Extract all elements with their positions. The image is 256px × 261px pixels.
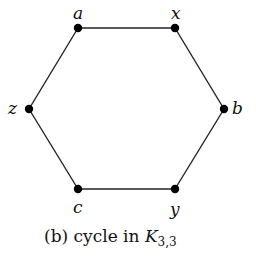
caption-prefix: (b) cycle in <box>44 226 145 246</box>
edge-c-z <box>29 109 78 189</box>
label-a: a <box>73 3 83 23</box>
vertex-c <box>74 185 82 193</box>
vertices <box>25 24 228 193</box>
cycle-edges <box>29 28 224 189</box>
label-b: b <box>232 98 243 118</box>
edge-z-a <box>29 28 78 109</box>
vertex-z <box>25 105 33 113</box>
edge-x-b <box>175 28 224 109</box>
vertex-y <box>171 185 179 193</box>
vertex-b <box>220 105 228 113</box>
label-x: x <box>171 3 181 23</box>
vertex-x <box>171 24 179 32</box>
vertex-a <box>74 24 82 32</box>
caption-subscript: 3,3 <box>158 235 177 249</box>
figure-caption: (b) cycle in K3,3 <box>44 226 177 249</box>
label-z: z <box>7 98 18 118</box>
hexagon-cycle-diagram: a x b y c z (b) cycle in K3,3 <box>0 0 256 261</box>
label-c: c <box>73 197 83 217</box>
label-y: y <box>169 199 180 219</box>
edge-b-y <box>175 109 224 189</box>
